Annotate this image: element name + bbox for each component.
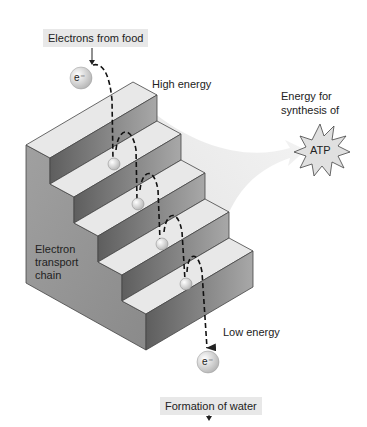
electron-label-bottom: e⁻ — [202, 355, 213, 368]
diagram-canvas — [0, 0, 367, 427]
synthesis-of-label: synthesis of — [281, 104, 339, 117]
high-energy-label: High energy — [152, 78, 211, 91]
sink-label: Formation of water — [160, 397, 262, 415]
source-label: Electrons from food — [43, 29, 148, 47]
energy-for-label: Energy for — [281, 90, 332, 103]
electron-label-top: e⁻ — [74, 71, 85, 84]
chain-label-1: Electron — [35, 243, 75, 256]
chain-label-3: chain — [35, 269, 61, 282]
low-energy-label: Low energy — [223, 326, 280, 339]
chain-label-2: transport — [35, 256, 78, 269]
atp-label: ATP — [310, 144, 331, 157]
